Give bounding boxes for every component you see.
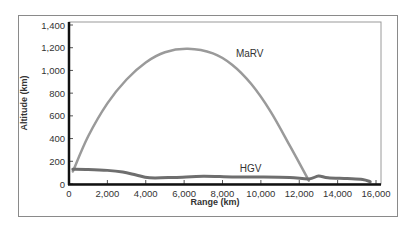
marv-label: MaRV [236, 48, 264, 59]
x-tick-label: 14,000 [323, 188, 352, 199]
marv-line [73, 49, 309, 181]
y-tick-label: 400 [49, 133, 65, 144]
x-tick-label: 12,000 [285, 188, 314, 199]
series-lines [73, 49, 370, 182]
series-labels: MaRVHGV [236, 48, 264, 174]
line-chart: 02004006008001,0001,2001,400 02,0004,000… [0, 0, 416, 229]
y-tick-label: 1,200 [41, 42, 65, 53]
x-tick-label: 10,000 [246, 188, 275, 199]
y-tick-label: 1,000 [41, 65, 65, 76]
y-tick-label: 800 [49, 88, 65, 99]
x-tick-label: 16,000 [361, 188, 390, 199]
y-tick-label: 1,400 [41, 20, 65, 31]
y-axis-title: Altitude (km) [19, 75, 29, 130]
y-tick-label: 0 [60, 179, 65, 190]
y-tick-label: 600 [49, 110, 65, 121]
x-tick-label: 0 [66, 188, 71, 199]
hgv-line [73, 169, 370, 181]
x-axis-title: Range (km) [190, 197, 239, 207]
y-tick-label: 200 [49, 156, 65, 167]
x-tick-label: 4,000 [134, 188, 158, 199]
plot-area-border [69, 22, 381, 184]
x-tick-label: 2,000 [95, 188, 119, 199]
hgv-label: HGV [240, 163, 262, 174]
